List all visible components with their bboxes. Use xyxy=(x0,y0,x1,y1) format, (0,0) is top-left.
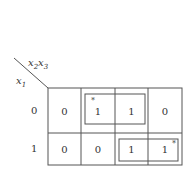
row-variable-label: x1 xyxy=(16,76,26,90)
cell-0-3: 0 xyxy=(148,106,182,117)
essential-mark-0: * xyxy=(91,96,95,106)
cell-1-0: 0 xyxy=(48,144,81,155)
cell-1-3: 1 xyxy=(148,144,182,155)
row-label-1: 1 xyxy=(31,144,37,154)
cell-0-1: 1 xyxy=(81,106,115,117)
cell-1-2: 1 xyxy=(115,144,148,155)
cell-0-0: 0 xyxy=(48,106,81,117)
essential-mark-1: * xyxy=(172,139,176,149)
row-label-0: 0 xyxy=(31,106,37,116)
cell-1-1: 0 xyxy=(81,144,115,155)
cell-0-2: 1 xyxy=(115,106,148,117)
col-variables-label: x2x3 xyxy=(28,58,48,72)
